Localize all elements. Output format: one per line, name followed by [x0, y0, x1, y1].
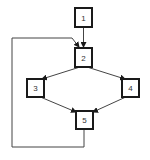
- node-4: 4: [122, 79, 139, 97]
- flowchart-diagram: 1 2 3 4 5: [0, 0, 150, 160]
- edge-2-to-3: [42, 67, 80, 79]
- edge-2-to-4: [87, 67, 125, 79]
- node-2: 2: [75, 48, 92, 67]
- node-1-label: 1: [81, 14, 86, 23]
- node-1: 1: [75, 8, 92, 27]
- node-3: 3: [27, 79, 44, 97]
- node-3-label: 3: [33, 84, 38, 93]
- node-5: 5: [76, 111, 93, 129]
- node-4-label: 4: [128, 84, 133, 93]
- node-2-label: 2: [81, 54, 86, 63]
- edge-3-to-5: [38, 96, 76, 112]
- edge-4-to-5: [93, 96, 128, 112]
- node-5-label: 5: [82, 116, 87, 125]
- edge-5-to-2-loop: [12, 38, 84, 147]
